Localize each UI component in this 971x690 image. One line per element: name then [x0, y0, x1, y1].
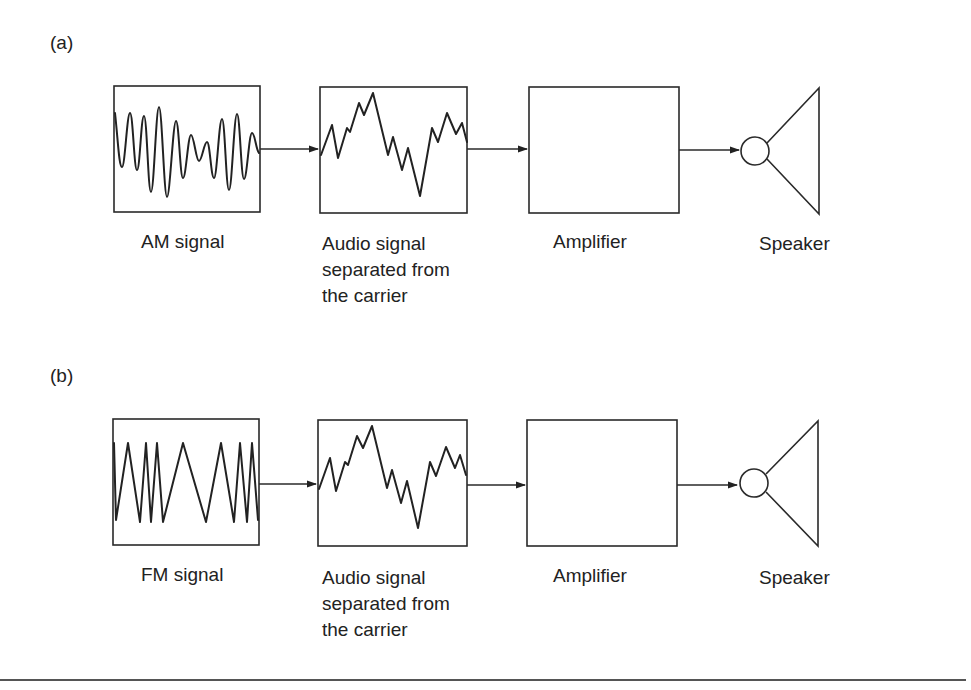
audio-waveform-icon: [319, 426, 466, 528]
caption-amplifier-a: Amplifier: [553, 229, 627, 255]
caption-audio-signal-a: Audio signal separated from the carrier: [322, 231, 450, 309]
amplifier-box-a: [529, 87, 679, 213]
speaker-icon: [740, 421, 818, 546]
audio-signal-block-b: [318, 420, 467, 546]
am-waveform-icon: [115, 107, 259, 197]
fm-waveform-icon: [114, 443, 258, 522]
caption-amplifier-b: Amplifier: [553, 563, 627, 589]
audio-signal-box-a: [320, 87, 467, 213]
amplifier-box-b: [527, 420, 677, 546]
caption-speaker-a: Speaker: [759, 231, 830, 257]
caption-fm-signal: FM signal: [141, 562, 223, 588]
panel-b: [113, 419, 818, 546]
caption-audio-signal-b: Audio signal separated from the carrier: [322, 565, 450, 643]
speaker-icon: [741, 88, 819, 214]
fm-signal-block: [113, 419, 259, 545]
bottom-divider: [0, 679, 966, 681]
caption-speaker-b: Speaker: [759, 565, 830, 591]
caption-am-signal: AM signal: [141, 229, 224, 255]
panel-a: [114, 86, 819, 214]
audio-signal-box-b: [318, 420, 467, 546]
am-signal-block: [114, 86, 260, 212]
audio-waveform-icon: [321, 93, 467, 196]
audio-signal-block-a: [320, 87, 467, 213]
